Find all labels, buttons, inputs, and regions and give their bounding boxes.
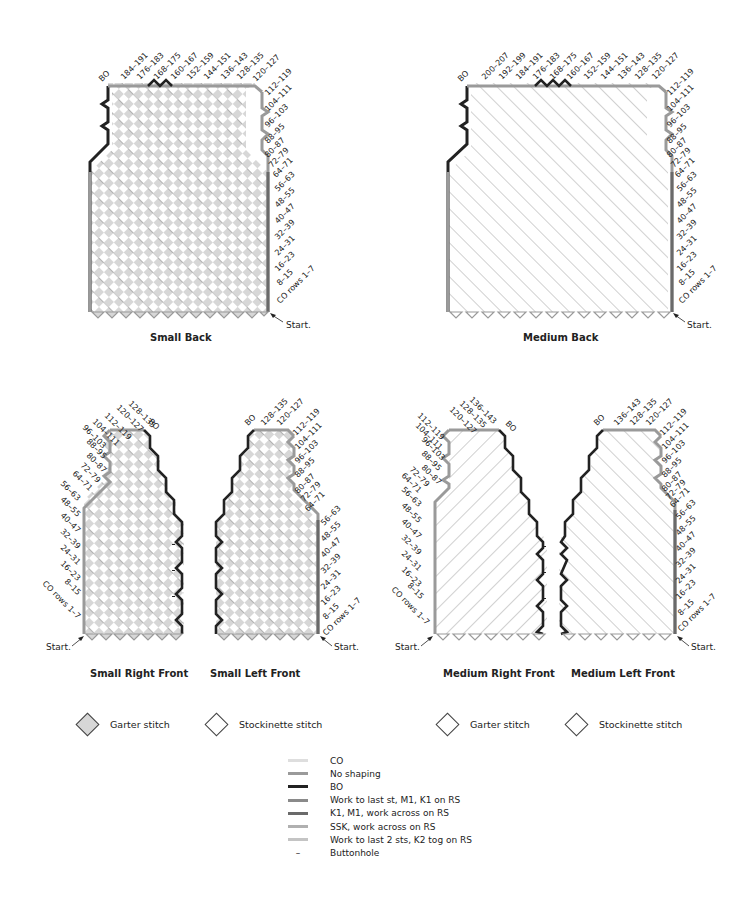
- ssk-line-icon: [288, 825, 308, 828]
- medium-back-diagram: BO 200–207 192–199 184–191 176–183 168–1…: [377, 0, 754, 360]
- medium-left-front-schematic: BO 136–143 128–135 120–127 112–119 104–1…: [557, 380, 754, 690]
- legend-item-bo: BO: [288, 780, 472, 793]
- medium-left-front-diagram: BO 136–143 128–135 120–127 112–119 104–1…: [557, 380, 754, 690]
- small-right-front-diagram: BO 128–135 120–127 112–119 104–111 96–10…: [0, 380, 190, 690]
- small-back-diagram: BO 184–191 176–183 168–175 160–167 152–1…: [0, 0, 377, 360]
- diagram-title: Small Back: [150, 332, 212, 343]
- shaping-legend: CO No shaping BO Work to last st, M1, K1…: [288, 754, 472, 860]
- legend-item-co: CO: [288, 754, 472, 767]
- no-shaping-line-icon: [288, 772, 308, 775]
- garter-swatch-icon: [436, 713, 458, 735]
- co-line-icon: [288, 759, 308, 762]
- diagram-title: Medium Back: [523, 332, 598, 343]
- medium-right-front-diagram: BO 136–143 128–135 120–127 112–119 104–1…: [377, 380, 557, 690]
- key-medium-garter: Garter stitch: [436, 713, 530, 735]
- stockinette-swatch-icon: [205, 713, 227, 735]
- increase-start-line-icon: [288, 812, 308, 815]
- bo-label: BO: [97, 69, 112, 84]
- start-label: Start.: [334, 642, 359, 652]
- bo-label: BO: [243, 413, 258, 428]
- small-left-front-diagram: BO 128–135 120–127 112–119 104–111 96–10…: [190, 380, 377, 690]
- increase-end-line-icon: [288, 799, 308, 802]
- legend-item-inc-start: K1, M1, work across on RS: [288, 807, 472, 820]
- bo-line-icon: [288, 785, 308, 788]
- medium-back-schematic: BO 200–207 192–199 184–191 176–183 168–1…: [377, 0, 754, 360]
- legend-item-k2tog: Work to last 2 sts, K2 tog on RS: [288, 833, 472, 846]
- start-label: Start.: [687, 320, 712, 330]
- svg-text:8–15: 8–15: [63, 577, 83, 597]
- legend-item-no-shaping: No shaping: [288, 767, 472, 780]
- start-label: Start.: [691, 642, 716, 652]
- diagram-title: Small Left Front: [210, 668, 300, 679]
- diagram-title: Medium Right Front: [443, 668, 555, 679]
- diagram-title: Small Right Front: [90, 668, 188, 679]
- stockinette-swatch-icon: [565, 713, 587, 735]
- small-right-front-schematic: BO 128–135 120–127 112–119 104–111 96–10…: [0, 380, 190, 690]
- key-medium-stockinette: Stockinette stitch: [565, 713, 682, 735]
- start-label: Start.: [395, 642, 420, 652]
- diagram-title: Medium Left Front: [571, 668, 675, 679]
- k2tog-line-icon: [288, 838, 308, 841]
- bo-label: BO: [504, 419, 519, 434]
- start-label: Start.: [286, 320, 311, 330]
- legend-item-ssk: SSK, work across on RS: [288, 820, 472, 833]
- legend-item-buttonhole: –Buttonhole: [288, 846, 472, 859]
- buttonhole-icon: –: [288, 850, 308, 856]
- key-small-stockinette: Stockinette stitch: [205, 713, 322, 735]
- garter-swatch-icon: [76, 713, 98, 735]
- start-label: Start.: [46, 642, 71, 652]
- bo-label: BO: [456, 69, 471, 84]
- small-back-schematic: BO 184–191 176–183 168–175 160–167 152–1…: [0, 0, 377, 360]
- key-small-garter: Garter stitch: [76, 713, 170, 735]
- legend-item-inc-end: Work to last st, M1, K1 on RS: [288, 794, 472, 807]
- bo-label: BO: [592, 413, 607, 428]
